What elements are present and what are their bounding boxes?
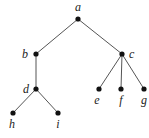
node-label-g: g (141, 93, 147, 107)
edge-c-f (121, 54, 122, 89)
tree-canvas: abcdefghi (0, 0, 149, 138)
node-label-e: e (94, 93, 100, 107)
node-f (118, 86, 123, 91)
node-d (33, 86, 38, 91)
node-c (119, 51, 124, 56)
node-label-d: d (23, 82, 30, 96)
node-g (141, 86, 146, 91)
node-label-a: a (75, 0, 81, 14)
node-h (10, 110, 15, 115)
node-label-f: f (119, 93, 124, 107)
tree-diagram: abcdefghi (0, 0, 149, 138)
edge-a-c (78, 19, 122, 54)
node-i (55, 110, 60, 115)
node-b (33, 51, 38, 56)
edge-c-e (99, 54, 122, 89)
node-label-b: b (22, 47, 28, 61)
node-label-h: h (9, 117, 15, 131)
node-a (75, 16, 80, 21)
edge-a-b (36, 19, 78, 54)
node-label-c: c (129, 47, 135, 61)
edge-d-i (36, 89, 58, 113)
node-e (96, 86, 101, 91)
node-label-i: i (56, 117, 59, 131)
